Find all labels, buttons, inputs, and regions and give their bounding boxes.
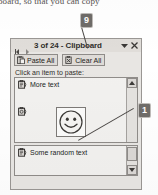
list-item[interactable] bbox=[15, 89, 126, 137]
task-pane-title-bar: 3 of 24 - Clipboard bbox=[11, 39, 141, 52]
paste-all-label: Paste All bbox=[27, 57, 54, 64]
task-pane-title: 3 of 24 - Clipboard bbox=[34, 41, 102, 50]
clipboard-hint-text: Click an item to paste: bbox=[11, 67, 141, 77]
clipboard-toolbar: Paste All Clear All bbox=[11, 52, 141, 67]
list-item[interactable]: More text bbox=[15, 78, 126, 89]
chevron-down-icon[interactable] bbox=[120, 41, 129, 50]
right-arrow-icon[interactable] bbox=[24, 42, 31, 50]
paste-all-button[interactable]: Paste All bbox=[14, 54, 58, 66]
callout-marker-9: 9 bbox=[81, 14, 92, 27]
clipboard-clear-icon bbox=[65, 56, 73, 64]
clipboard-items-list: More text bbox=[14, 77, 138, 143]
clipboard-items-container-lower: Some random text bbox=[15, 146, 126, 175]
callout-marker-1: 1 bbox=[139, 104, 150, 117]
clipboard-items-list-lower: Some random text bbox=[14, 145, 138, 176]
left-arrow-icon[interactable] bbox=[14, 42, 21, 50]
list-item-label: More text bbox=[30, 80, 59, 88]
clipboard-paste-icon bbox=[17, 56, 25, 64]
clipboard-item-icon bbox=[18, 107, 27, 116]
scrollbar-thumb[interactable] bbox=[127, 147, 137, 161]
clipboard-image-thumbnail[interactable] bbox=[56, 107, 86, 137]
scroll-up-arrow-icon[interactable] bbox=[127, 78, 137, 88]
scroll-down-arrow-icon[interactable] bbox=[127, 165, 137, 175]
clipboard-item-icon bbox=[18, 80, 27, 89]
clear-all-label: Clear All bbox=[75, 57, 101, 64]
clipboard-list-scrollbar-lower[interactable] bbox=[126, 146, 137, 175]
clipboard-items-container: More text bbox=[15, 78, 126, 142]
task-pane-nav-icons bbox=[14, 42, 31, 50]
close-icon[interactable] bbox=[130, 41, 139, 50]
clear-all-button[interactable]: Clear All bbox=[62, 54, 105, 66]
document-cropped-text: board, so that you can copy bbox=[0, 0, 158, 8]
clipboard-item-icon bbox=[18, 148, 27, 157]
list-item-label: Some random text bbox=[30, 148, 87, 156]
smiley-face-icon bbox=[57, 108, 85, 136]
list-item[interactable]: Some random text bbox=[15, 146, 126, 157]
